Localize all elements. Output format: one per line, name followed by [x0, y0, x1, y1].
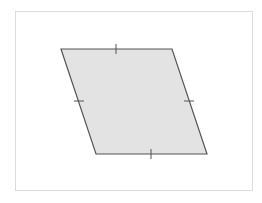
rhombus-diagram: [0, 0, 262, 203]
